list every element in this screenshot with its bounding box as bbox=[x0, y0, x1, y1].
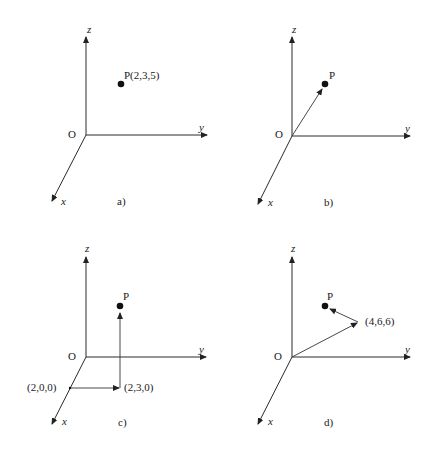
z-axis-label: z bbox=[290, 242, 296, 254]
x-axis-label: x bbox=[60, 195, 66, 207]
point-p-label: P bbox=[329, 69, 335, 81]
coordinate-diagrams: z y x O P(2,3,5) a) z y x O P b) z y x O… bbox=[0, 0, 432, 452]
label-230: (2,3,0) bbox=[124, 381, 154, 394]
origin-label: O bbox=[68, 350, 76, 362]
y-axis-label: y bbox=[404, 343, 410, 355]
origin-label: O bbox=[68, 128, 76, 140]
point-p-label: P(2,3,5) bbox=[124, 69, 160, 82]
vector-o-to-466 bbox=[292, 323, 357, 357]
point-p-label: P bbox=[123, 290, 129, 302]
panel-d: z y x O P (4,6,6) d) bbox=[258, 242, 410, 429]
x-axis bbox=[52, 135, 86, 201]
point-p bbox=[118, 81, 125, 88]
y-axis-label: y bbox=[198, 121, 204, 133]
x-axis bbox=[258, 357, 292, 424]
label-466: (4,6,6) bbox=[365, 315, 395, 328]
point-p bbox=[322, 81, 329, 88]
point-200 bbox=[69, 387, 71, 389]
point-p bbox=[322, 303, 329, 310]
z-axis-label: z bbox=[86, 23, 92, 35]
y-axis-label: y bbox=[404, 122, 410, 134]
panel-caption: a) bbox=[117, 195, 126, 208]
x-axis-label: x bbox=[267, 415, 273, 427]
point-p-label: P bbox=[327, 290, 333, 302]
vector-466-to-p bbox=[330, 309, 358, 322]
panel-caption: b) bbox=[324, 196, 334, 209]
z-axis-label: z bbox=[84, 242, 90, 254]
x-axis-label: x bbox=[267, 196, 273, 208]
x-axis bbox=[258, 136, 292, 204]
panel-caption: c) bbox=[118, 416, 127, 429]
panel-b: z y x O P b) bbox=[258, 23, 410, 209]
label-200: (2,0,0) bbox=[27, 381, 57, 394]
origin-label: O bbox=[274, 350, 282, 362]
position-vector-op bbox=[292, 89, 322, 136]
point-p bbox=[117, 303, 124, 310]
y-axis-label: y bbox=[198, 343, 204, 355]
x-axis bbox=[52, 357, 86, 424]
x-axis-label: x bbox=[61, 415, 67, 427]
panel-c: z y x O P (2,0,0) (2,3,0) c) bbox=[27, 242, 206, 429]
z-axis-label: z bbox=[291, 23, 297, 35]
panel-caption: d) bbox=[324, 416, 334, 429]
panel-a: z y x O P(2,3,5) a) bbox=[52, 23, 207, 208]
origin-label: O bbox=[275, 128, 283, 140]
